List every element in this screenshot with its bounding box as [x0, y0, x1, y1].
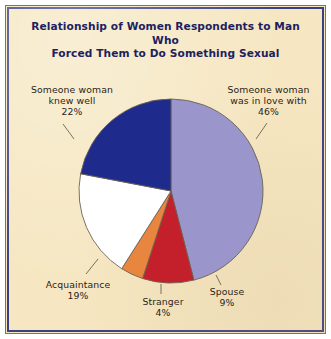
- pie-label-acquaintance: Acquaintance 19%: [26, 279, 130, 301]
- leader-line-spouse: [216, 275, 221, 285]
- leader-line-knew-well: [63, 124, 74, 139]
- pie-label-someone-woman-knew-well: Someone woman knew well 22%: [16, 84, 128, 118]
- chart-figure-frame: Relationship of Women Respondents to Man…: [5, 5, 326, 334]
- leader-line-acquaintance: [86, 259, 98, 274]
- pie-slice-group: [79, 99, 263, 283]
- pie-label-spouse: Spouse 9%: [196, 286, 258, 308]
- pie-label-stranger: Stranger 4%: [131, 296, 195, 318]
- leader-line-in-love: [256, 123, 267, 139]
- pie-label-someone-woman-in-love: Someone woman was in love with 46%: [211, 84, 326, 118]
